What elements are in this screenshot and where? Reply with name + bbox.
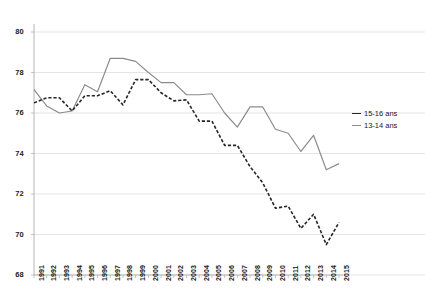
x-axis-tick-label: 1999: [139, 265, 146, 281]
chart-legend: 15-16 ans13-14 ans: [352, 108, 424, 132]
x-axis-tick-label: 1997: [114, 265, 121, 281]
x-axis-tick-label: 2006: [228, 265, 235, 281]
x-axis-tick-label: 2009: [266, 265, 273, 281]
legend-label: 13-14 ans: [364, 121, 397, 130]
y-axis-tick-label: 68: [2, 270, 24, 279]
x-axis-tick-label: 2005: [215, 265, 222, 281]
x-axis-tick-label: 2013: [317, 265, 324, 281]
x-axis-tick-label: 1996: [101, 265, 108, 281]
x-axis-tick-label: 2001: [165, 265, 172, 281]
y-axis-tick-label: 80: [2, 27, 24, 36]
series-line-15-16-ans: [34, 80, 339, 245]
y-axis-tick-label: 74: [2, 149, 24, 158]
x-axis-tick-label: 2011: [292, 265, 299, 281]
legend-swatch: [352, 125, 361, 126]
y-axis-tick-label: 72: [2, 189, 24, 198]
x-axis-tick-label: 1992: [50, 265, 57, 281]
x-axis-tick-label: 1994: [76, 265, 83, 281]
series-line-13-14-ans: [34, 58, 339, 169]
x-axis-tick-label: 2014: [330, 265, 337, 281]
x-axis-tick-label: 2008: [254, 265, 261, 281]
x-axis-tick-label: 2003: [190, 265, 197, 281]
legend-label: 15-16 ans: [364, 109, 397, 118]
y-axis-tick-label: 70: [2, 230, 24, 239]
legend-swatch: [352, 113, 361, 114]
x-axis-tick-label: 2015: [343, 265, 350, 281]
x-axis-tick-label: 2010: [279, 265, 286, 281]
x-axis-tick-label: 2007: [241, 265, 248, 281]
x-axis-tick-label: 1993: [63, 265, 70, 281]
chart-container: 80787674727068 1991199219931994199519961…: [0, 0, 425, 308]
x-axis-tick-label: 2000: [152, 265, 159, 281]
x-axis-tick-label: 1995: [88, 265, 95, 281]
y-axis-tick-label: 76: [2, 108, 24, 117]
y-axis-tick-label: 78: [2, 68, 24, 77]
chart-plot-area: [0, 0, 425, 308]
legend-item: 15-16 ans: [352, 108, 424, 119]
legend-item: 13-14 ans: [352, 120, 424, 131]
x-axis-tick-label: 1991: [38, 265, 45, 281]
x-axis-tick-label: 1998: [126, 265, 133, 281]
x-axis-tick-label: 2012: [304, 265, 311, 281]
x-axis-tick-label: 2002: [177, 265, 184, 281]
x-axis-tick-label: 2004: [203, 265, 210, 281]
